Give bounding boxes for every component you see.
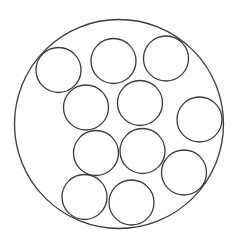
inner-circle-2	[91, 39, 136, 84]
inner-circle-1	[36, 48, 81, 93]
inner-circle-8	[120, 129, 165, 174]
inner-circle-6	[177, 97, 222, 142]
inner-circle-7	[74, 131, 119, 176]
circle-packing-diagram	[0, 0, 232, 237]
inner-circle-3	[144, 36, 189, 81]
inner-circle-10	[62, 175, 107, 220]
inner-circle-9	[162, 150, 207, 195]
inner-circle-5	[118, 81, 163, 126]
inner-circle-11	[109, 180, 154, 225]
inner-circle-4	[64, 85, 109, 130]
